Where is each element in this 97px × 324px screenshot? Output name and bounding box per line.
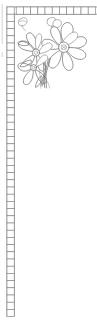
border-cell-top xyxy=(74,7,81,14)
border-cell-left xyxy=(7,21,14,28)
line-art-canvas xyxy=(0,0,97,324)
border-cell-left xyxy=(7,129,14,136)
border-cell-left xyxy=(7,201,14,208)
border-cell-left xyxy=(7,173,14,180)
border-cell-left xyxy=(7,281,14,288)
border-cell-left xyxy=(7,259,14,266)
border-cell-left xyxy=(7,230,14,237)
border-cell-left xyxy=(7,43,14,50)
border-cell-left xyxy=(7,245,14,252)
border-cell-top xyxy=(16,7,23,14)
border-cell-left xyxy=(7,137,14,144)
border-cell-left xyxy=(7,50,14,57)
border-cell-left xyxy=(7,65,14,72)
border-cell-top xyxy=(45,7,52,14)
border-cell-left xyxy=(7,36,14,43)
border-cell-left xyxy=(7,223,14,230)
border-cell-left xyxy=(7,266,14,273)
border-cell-top xyxy=(88,7,95,14)
border-cell-left xyxy=(7,216,14,223)
border-cell-left xyxy=(7,237,14,244)
border-cell-left xyxy=(7,309,14,316)
border-cell-left xyxy=(7,108,14,115)
border-cell-top xyxy=(23,7,30,14)
border-cell-left xyxy=(7,302,14,309)
border-cell-top xyxy=(81,7,88,14)
border-cell-left xyxy=(7,273,14,280)
border-cell-left xyxy=(7,252,14,259)
border-cell-left xyxy=(7,187,14,194)
border-cell-top xyxy=(59,7,66,14)
border-cell-corner xyxy=(7,7,14,14)
border-cell-left xyxy=(7,122,14,129)
border-cell-left xyxy=(7,165,14,172)
border-cell-left xyxy=(7,151,14,158)
border-cell-top xyxy=(31,7,38,14)
border-cell-left xyxy=(7,57,14,64)
border-cell-left xyxy=(7,79,14,86)
border-cell-left xyxy=(7,29,14,36)
border-cell-left xyxy=(7,144,14,151)
border-cell-left xyxy=(7,209,14,216)
border-cell-left xyxy=(7,86,14,93)
border-cell-left xyxy=(7,194,14,201)
border-cell-left xyxy=(7,115,14,122)
artboard xyxy=(0,0,97,324)
border-cell-left xyxy=(7,158,14,165)
border-cell-left xyxy=(7,295,14,302)
border-cell-top xyxy=(67,7,74,14)
border-cell-left xyxy=(7,14,14,21)
border-cell-left xyxy=(7,93,14,100)
border-cell-left xyxy=(7,180,14,187)
border-cell-left xyxy=(7,72,14,79)
border-cell-left xyxy=(7,101,14,108)
border-cell-top xyxy=(52,7,59,14)
border-cell-top xyxy=(38,7,45,14)
border-cell-left xyxy=(7,288,14,295)
